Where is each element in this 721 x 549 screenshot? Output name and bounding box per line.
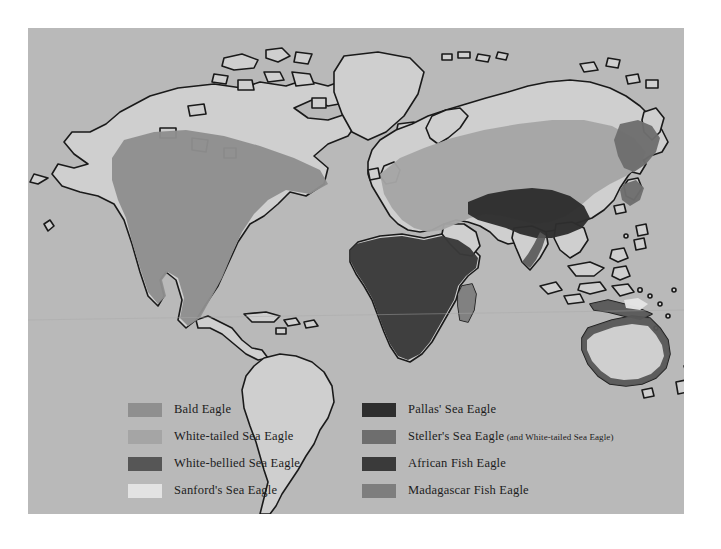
world-range-map: Bald Eagle White-tailed Sea Eagle White-… bbox=[28, 28, 684, 514]
legend-swatch-bald-eagle bbox=[128, 403, 162, 417]
legend-label-stellers-sea-eagle: Steller's Sea Eagle (and White-tailed Se… bbox=[408, 429, 614, 444]
legend-label-stellers-main: Steller's Sea Eagle bbox=[408, 429, 504, 443]
legend-column-left: Bald Eagle White-tailed Sea Eagle White-… bbox=[128, 396, 300, 504]
figure-root: Bald Eagle White-tailed Sea Eagle White-… bbox=[0, 0, 721, 549]
legend-item-african-fish-eagle: African Fish Eagle bbox=[362, 450, 614, 477]
legend-swatch-stellers-sea-eagle bbox=[362, 430, 396, 444]
legend-item-bald-eagle: Bald Eagle bbox=[128, 396, 300, 423]
legend-swatch-pallas-sea-eagle bbox=[362, 403, 396, 417]
legend-label-white-tailed-sea-eagle: White-tailed Sea Eagle bbox=[174, 429, 294, 444]
legend-swatch-white-bellied-sea-eagle bbox=[128, 457, 162, 471]
legend-label-pallas-sea-eagle: Pallas' Sea Eagle bbox=[408, 402, 496, 417]
legend-label-african-fish-eagle: African Fish Eagle bbox=[408, 456, 506, 471]
legend-swatch-madagascar-fish-eagle bbox=[362, 484, 396, 498]
legend-label-stellers-note: (and White-tailed Sea Eagle) bbox=[504, 432, 613, 442]
legend: Bald Eagle White-tailed Sea Eagle White-… bbox=[28, 396, 684, 514]
legend-swatch-african-fish-eagle bbox=[362, 457, 396, 471]
legend-swatch-sanfords-sea-eagle bbox=[128, 484, 162, 498]
legend-item-white-tailed-sea-eagle: White-tailed Sea Eagle bbox=[128, 423, 300, 450]
legend-label-madagascar-fish-eagle: Madagascar Fish Eagle bbox=[408, 483, 529, 498]
legend-swatch-white-tailed-sea-eagle bbox=[128, 430, 162, 444]
legend-item-sanfords-sea-eagle: Sanford's Sea Eagle bbox=[128, 477, 300, 504]
legend-label-sanfords-sea-eagle: Sanford's Sea Eagle bbox=[174, 483, 277, 498]
legend-item-madagascar-fish-eagle: Madagascar Fish Eagle bbox=[362, 477, 614, 504]
legend-column-right: Pallas' Sea Eagle Steller's Sea Eagle (a… bbox=[362, 396, 614, 504]
legend-item-pallas-sea-eagle: Pallas' Sea Eagle bbox=[362, 396, 614, 423]
legend-item-stellers-sea-eagle: Steller's Sea Eagle (and White-tailed Se… bbox=[362, 423, 614, 450]
legend-label-bald-eagle: Bald Eagle bbox=[174, 402, 231, 417]
legend-item-white-bellied-sea-eagle: White-bellied Sea Eagle bbox=[128, 450, 300, 477]
legend-label-white-bellied-sea-eagle: White-bellied Sea Eagle bbox=[174, 456, 300, 471]
